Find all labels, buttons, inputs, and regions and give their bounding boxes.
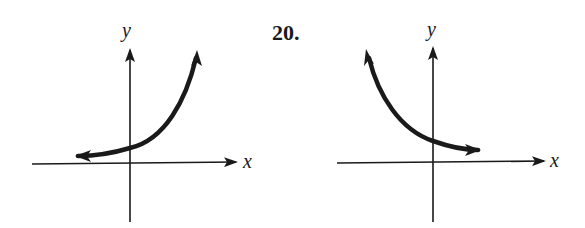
left-growth-curve bbox=[78, 58, 196, 156]
left-graph: y x bbox=[32, 19, 252, 222]
right-x-label: x bbox=[549, 149, 559, 171]
left-y-label: y bbox=[120, 19, 131, 42]
left-x-label: x bbox=[242, 150, 252, 172]
right-decay-curve bbox=[369, 58, 478, 150]
problem-number: 20. bbox=[272, 20, 300, 45]
left-x-axis bbox=[32, 162, 236, 164]
right-x-axis bbox=[337, 161, 544, 163]
right-y-label: y bbox=[425, 18, 436, 41]
right-graph: y x bbox=[337, 18, 559, 222]
figure-canvas: y x 20. y x bbox=[0, 0, 585, 228]
